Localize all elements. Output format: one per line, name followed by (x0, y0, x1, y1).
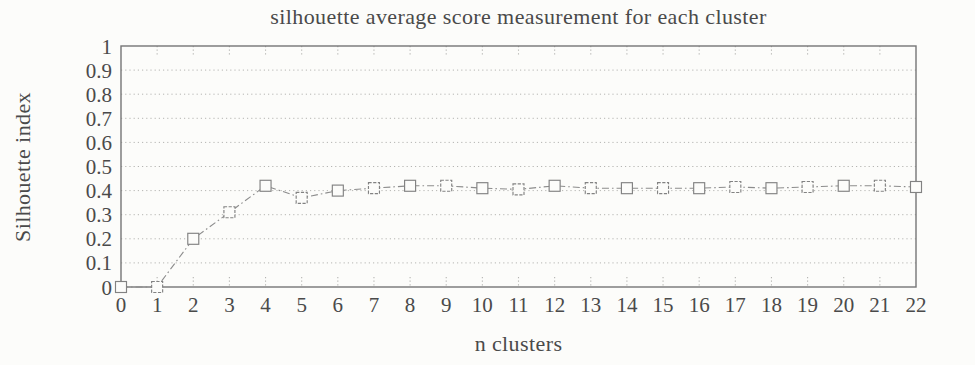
data-point-marker (405, 180, 416, 191)
x-tick-label: 4 (260, 293, 271, 317)
x-tick-label: 22 (906, 293, 927, 317)
y-tick-label: 0.4 (86, 179, 113, 203)
x-tick-label: 6 (333, 293, 344, 317)
x-tick-labels: 012345678910111213141516171819202122 (116, 293, 927, 317)
x-tick-label: 15 (653, 293, 674, 317)
x-tick-label: 20 (833, 293, 854, 317)
data-point-marker (874, 180, 885, 191)
x-tick-label: 14 (616, 293, 638, 317)
x-tick-label: 18 (761, 293, 782, 317)
data-point-marker (260, 180, 271, 191)
data-point-marker (224, 207, 235, 218)
data-point-marker (116, 282, 127, 293)
x-tick-label: 8 (405, 293, 416, 317)
data-series (116, 180, 922, 292)
y-tick-label: 1 (102, 35, 113, 59)
silhouette-chart-figure: silhouette average score measurement for… (0, 0, 975, 365)
data-point-marker (549, 180, 560, 191)
data-point-marker (188, 233, 199, 244)
data-point-marker (802, 181, 813, 192)
x-tick-label: 17 (725, 293, 746, 317)
y-tick-label: 0.7 (86, 107, 112, 131)
data-point-marker (477, 183, 488, 194)
data-point-marker (585, 183, 596, 194)
plot-area: 01234567891011121314151617181920212200.1… (0, 0, 975, 365)
data-point-marker (152, 282, 163, 293)
x-axis-label: n clusters (121, 331, 916, 357)
data-point-marker (658, 183, 669, 194)
data-point-marker (513, 184, 524, 195)
y-tick-labels: 00.10.20.30.40.50.60.70.80.91 (86, 35, 113, 300)
y-tick-label: 0.1 (86, 251, 112, 275)
data-point-marker (441, 180, 452, 191)
x-tick-label: 11 (508, 293, 528, 317)
x-tick-label: 0 (116, 293, 127, 317)
y-tick-label: 0.2 (86, 227, 112, 251)
x-tick-label: 16 (689, 293, 710, 317)
x-tick-label: 9 (441, 293, 452, 317)
data-point-marker (694, 183, 705, 194)
x-tick-marks (157, 46, 880, 287)
x-tick-label: 19 (797, 293, 818, 317)
x-tick-label: 21 (869, 293, 890, 317)
data-point-marker (621, 183, 632, 194)
data-line (121, 186, 916, 287)
data-point-marker (332, 185, 343, 196)
data-point-marker (730, 181, 741, 192)
x-tick-label: 1 (152, 293, 163, 317)
y-tick-label: 0.3 (86, 203, 112, 227)
data-point-marker (911, 181, 922, 192)
data-point-marker (296, 192, 307, 203)
x-tick-label: 12 (544, 293, 565, 317)
x-tick-label: 5 (296, 293, 307, 317)
y-tick-label: 0 (102, 276, 113, 300)
plot-border (121, 46, 916, 287)
data-point-marker (766, 183, 777, 194)
x-tick-label: 3 (224, 293, 235, 317)
data-point-marker (838, 180, 849, 191)
y-tick-label: 0.6 (86, 131, 112, 155)
x-tick-label: 2 (188, 293, 199, 317)
x-tick-label: 7 (369, 293, 380, 317)
x-tick-label: 13 (580, 293, 601, 317)
gridlines (121, 70, 916, 263)
y-tick-label: 0.5 (86, 155, 112, 179)
y-tick-label: 0.8 (86, 83, 112, 107)
y-tick-label: 0.9 (86, 59, 112, 83)
data-point-marker (368, 183, 379, 194)
x-tick-label: 10 (472, 293, 493, 317)
